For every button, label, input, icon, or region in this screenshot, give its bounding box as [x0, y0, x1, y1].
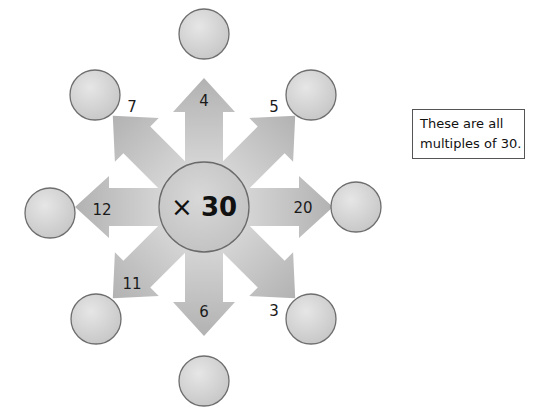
arrow-label-right: 20 — [293, 199, 312, 217]
arrow-label-down-left: 11 — [122, 275, 141, 293]
note-box: These are all multiples of 30. — [412, 109, 525, 159]
arrow-label-down-right: 3 — [269, 302, 279, 320]
arrow-label-up-left: 7 — [127, 98, 137, 116]
multiplier-value: 30 — [201, 192, 237, 222]
arrow-label-up-right: 5 — [269, 98, 279, 116]
answer-circle-bottom-right[interactable] — [286, 294, 336, 344]
answer-circle-top[interactable] — [179, 9, 229, 59]
answer-circle-right[interactable] — [331, 182, 381, 232]
multiplication-wheel: × 30 45203611127 — [0, 0, 547, 411]
note-line-1: These are all — [420, 114, 524, 134]
answer-circle-left[interactable] — [25, 188, 75, 238]
answer-circle-bottom-left[interactable] — [71, 294, 121, 344]
answer-circle-top-right[interactable] — [286, 70, 336, 120]
arrow-label-left: 12 — [92, 201, 111, 219]
answer-circle-top-left[interactable] — [70, 70, 120, 120]
arrow-label-up: 4 — [199, 92, 209, 110]
center-multiplier-label: × 30 — [171, 192, 237, 222]
answer-circle-bottom[interactable] — [179, 356, 229, 406]
center-layer: × 30 — [159, 162, 249, 252]
arrow-label-down: 6 — [199, 303, 209, 321]
times-symbol: × — [171, 192, 201, 222]
note-line-2: multiples of 30. — [420, 134, 524, 154]
